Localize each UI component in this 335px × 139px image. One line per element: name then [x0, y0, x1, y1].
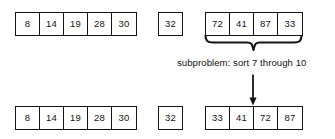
- array-cell: 28: [88, 107, 112, 129]
- array-cell: 19: [64, 107, 88, 129]
- array-after-pivot-segment: 32: [158, 106, 183, 130]
- array-cell: 41: [230, 107, 254, 129]
- array-cell: 72: [254, 107, 278, 129]
- array-cell: 32: [159, 13, 182, 35]
- array-cell: 32: [159, 107, 182, 129]
- array-cell: 14: [40, 13, 64, 35]
- array-after-left-segment: 8 14 19 28 30: [15, 106, 137, 130]
- subproblem-caption: subproblem: sort 7 through 10: [177, 58, 306, 68]
- array-cell: 14: [40, 107, 64, 129]
- array-cell: 28: [88, 13, 112, 35]
- array-cell: 30: [112, 107, 136, 129]
- array-cell: 8: [16, 13, 40, 35]
- array-before-left-segment: 8 14 19 28 30: [15, 12, 137, 36]
- array-after-sorted-segment: 33 41 72 87: [205, 106, 303, 130]
- array-before-unsorted-segment: 72 41 87 33: [205, 12, 303, 36]
- diagram-canvas: 8 14 19 28 30 32 72 41 87 33 subproblem:…: [0, 0, 335, 139]
- array-before-pivot-segment: 32: [158, 12, 183, 36]
- array-cell: 87: [254, 13, 278, 35]
- array-cell: 72: [206, 13, 230, 35]
- array-cell: 30: [112, 13, 136, 35]
- array-cell: 87: [278, 107, 302, 129]
- array-cell: 19: [64, 13, 88, 35]
- arrow-down-icon: [247, 74, 259, 106]
- array-cell: 33: [206, 107, 230, 129]
- array-cell: 8: [16, 107, 40, 129]
- curly-brace-icon: [204, 35, 303, 51]
- array-cell: 41: [230, 13, 254, 35]
- array-cell: 33: [278, 13, 302, 35]
